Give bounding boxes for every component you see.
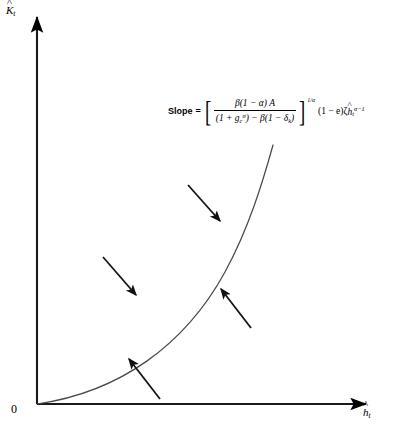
den-part-3: ) (291, 113, 294, 123)
tail-superscript: σ−1 (354, 105, 365, 112)
arrow-right-region-mid (221, 289, 251, 328)
fraction-denominator: (1 + gcσ) − β(1 − δk) (214, 110, 296, 125)
y-axis-label: ^Kt (6, 4, 15, 18)
bracket-exponent: 1/α (307, 97, 315, 103)
den-part-2: ) − β(1 − δ (246, 113, 289, 123)
y-label-hat: ^ (7, 0, 12, 8)
tail-factor-text: (1 − e)ζ (318, 107, 347, 117)
den-part-1: (1 + g (216, 113, 240, 123)
slope-formula-annotation: Slope = [ β(1 − α) A (1 + gcσ) − β(1 − δ… (168, 98, 365, 125)
locus-curve (37, 145, 273, 404)
equals-sign: = (196, 106, 201, 116)
arrow-right-region-low (129, 359, 160, 399)
x-label-hat: ^ (363, 400, 368, 410)
arrow-upper-left-region (188, 185, 220, 221)
y-label-subscript: t (13, 9, 15, 18)
slope-word: Slope (168, 106, 193, 116)
fraction-numerator: β(1 − α) A (232, 98, 278, 110)
bracket-open: [ (205, 99, 211, 124)
economics-phase-diagram-figure: ^Kt ^ht 0 Slope = [ β(1 − α) A (1 + gcσ)… (0, 0, 397, 428)
tail-hat: ^ (348, 101, 352, 110)
bracket-close: ] (299, 99, 305, 124)
x-axis-label: ^ht (363, 406, 371, 420)
plot-canvas (0, 0, 397, 428)
arrow-lower-left-region (103, 257, 136, 295)
origin-label: 0 (11, 402, 17, 417)
tail-factor: (1 − e)ζ^htσ−1 (318, 105, 365, 117)
slope-fraction: β(1 − α) A (1 + gcσ) − β(1 − δk) (213, 98, 297, 125)
